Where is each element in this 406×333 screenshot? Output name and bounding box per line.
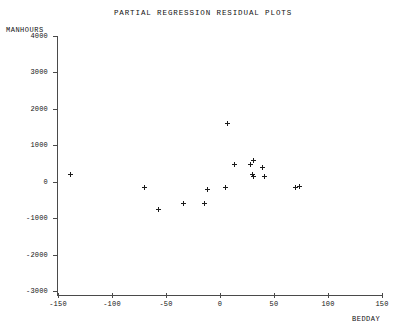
data-point [223, 185, 228, 190]
data-point [202, 201, 207, 206]
data-point [205, 187, 210, 192]
data-point [260, 165, 265, 170]
data-point [297, 184, 302, 189]
data-point [248, 162, 253, 167]
data-point [251, 174, 256, 179]
data-point [68, 172, 73, 177]
data-point [251, 158, 256, 163]
data-point [142, 185, 147, 190]
data-point [225, 121, 230, 126]
data-point [232, 162, 237, 167]
scatter-data-layer [0, 0, 406, 333]
data-point [181, 201, 186, 206]
partial-regression-residual-plot: PARTIAL REGRESSION RESIDUAL PLOTS MANHOU… [0, 0, 406, 333]
data-point [156, 207, 161, 212]
data-point [262, 174, 267, 179]
